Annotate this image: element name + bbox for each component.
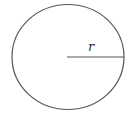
diagram-canvas: r	[0, 0, 130, 113]
circle-diagram: r	[0, 0, 130, 113]
radius-label: r	[88, 39, 95, 54]
